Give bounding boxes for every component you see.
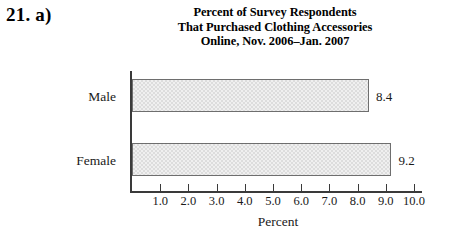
x-tick-label-6.0: 6.0 xyxy=(293,195,309,208)
x-axis-title: Percent xyxy=(130,215,426,229)
bar-value-male: 8.4 xyxy=(376,90,392,103)
chart-title-line-2: That Purchased Clothing Accessories xyxy=(120,20,430,35)
x-axis-line xyxy=(130,191,422,193)
chart-title: Percent of Survey Respondents That Purch… xyxy=(120,5,430,49)
x-tick-6.0 xyxy=(301,184,302,192)
category-label-male: Male xyxy=(88,90,116,104)
x-tick-7.0 xyxy=(329,184,330,192)
bar-value-female: 9.2 xyxy=(398,154,414,167)
x-tick-label-8.0: 8.0 xyxy=(350,195,366,208)
bar-male xyxy=(132,79,369,112)
x-tick-label-10.0: 10.0 xyxy=(403,195,425,208)
x-tick-8.0 xyxy=(358,184,359,192)
bar-female xyxy=(132,143,391,176)
x-tick-label-2.0: 2.0 xyxy=(181,195,197,208)
x-tick-10.0 xyxy=(414,184,415,192)
category-label-female: Female xyxy=(76,154,116,168)
x-tick-label-9.0: 9.0 xyxy=(378,195,394,208)
x-tick-1.0 xyxy=(160,184,161,192)
chart-title-line-1: Percent of Survey Respondents xyxy=(120,5,430,20)
x-tick-label-5.0: 5.0 xyxy=(265,195,281,208)
x-tick-label-4.0: 4.0 xyxy=(237,195,253,208)
x-tick-5.0 xyxy=(273,184,274,192)
x-tick-4.0 xyxy=(245,184,246,192)
x-tick-label-1.0: 1.0 xyxy=(152,195,168,208)
x-tick-label-3.0: 3.0 xyxy=(209,195,225,208)
x-tick-3.0 xyxy=(217,184,218,192)
x-tick-2.0 xyxy=(188,184,189,192)
chart-title-line-3: Online, Nov. 2006–Jan. 2007 xyxy=(120,34,430,49)
x-tick-label-7.0: 7.0 xyxy=(322,195,338,208)
plot-area: Male Female 8.4 9.2 1.02.03.04.05.06.07.… xyxy=(130,71,448,192)
bar-chart-figure: Percent of Survey Respondents That Purch… xyxy=(0,0,455,239)
x-tick-9.0 xyxy=(386,184,387,192)
